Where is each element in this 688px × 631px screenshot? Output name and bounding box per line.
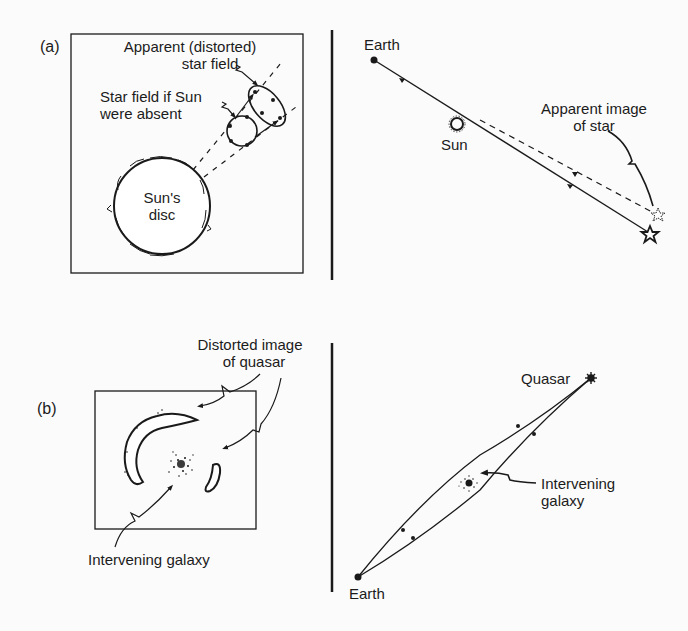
absent-field-label: Star field if Sun were absent: [100, 88, 202, 122]
distorted-quasar-label: Distorted image of quasar: [180, 336, 320, 370]
apparent-field-label: Apparent (distorted) star field: [109, 38, 271, 72]
panel-b-sky-view: [95, 374, 281, 547]
earth-dot-icon-b: [355, 574, 362, 581]
intervening-galaxy-label-line2: galaxy: [541, 492, 615, 509]
panel-a-tag: (a): [40, 38, 60, 55]
absent-field-label-line2: were absent: [100, 105, 202, 122]
sun-label: Sun: [441, 136, 468, 153]
distorted-quasar-label-line1: Distorted image: [180, 336, 320, 353]
absent-field-label-line1: Star field if Sun: [100, 88, 202, 105]
apparent-image-label-line2: of star: [526, 117, 662, 134]
panel-b-tag: (b): [37, 400, 57, 417]
dashed-rays: [193, 63, 296, 177]
true-star-icon: [642, 226, 659, 242]
earth-label-b: Earth: [349, 585, 385, 602]
panel-a-geometry: [371, 57, 666, 243]
apparent-star-icon: [651, 208, 665, 221]
intervening-galaxy-label-line1: Intervening: [541, 475, 615, 492]
distorted-star-field-icon: [242, 79, 293, 132]
sun-disc-label: Sun's disc: [122, 189, 202, 223]
panel-b-frame: [95, 391, 256, 529]
apparent-image-label: Apparent image of star: [526, 100, 662, 134]
galaxy-icon: [458, 475, 477, 491]
sun-disc-label-line2: disc: [122, 206, 202, 223]
intervening-galaxy-label-right: Intervening galaxy: [541, 475, 615, 509]
apparent-field-label-line2: star field: [109, 55, 271, 72]
apparent-field-label-line1: Apparent (distorted): [109, 38, 271, 55]
quasar-arc-small-icon: [206, 464, 221, 492]
galaxy-cluster-icon: [168, 451, 194, 477]
quasar-label: Quasar: [521, 370, 570, 387]
apparent-image-label-line1: Apparent image: [526, 100, 662, 117]
distorted-quasar-label-line2: of quasar: [180, 353, 320, 370]
intervening-galaxy-label-left: Intervening galaxy: [88, 551, 210, 568]
true-star-field-icon: [227, 115, 257, 147]
earth-label-a: Earth: [364, 36, 400, 53]
sun-icon: [449, 116, 465, 132]
apparent-image-pointer: [608, 131, 653, 206]
light-path-true: [374, 60, 648, 232]
label-pointers: [222, 65, 256, 116]
galaxy-pointer: [484, 473, 536, 483]
sun-disc-label-line1: Sun's: [122, 189, 202, 206]
